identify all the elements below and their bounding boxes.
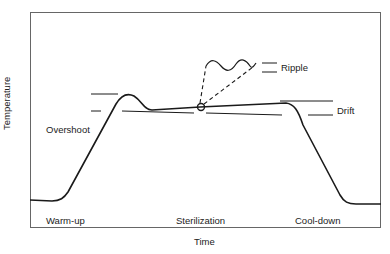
plot-frame: [31, 13, 381, 228]
zoom-dash-left: [200, 66, 206, 103]
ripple-wave: [206, 60, 256, 70]
temperature-curve: [30, 95, 381, 204]
x-axis-label: Time: [194, 236, 215, 247]
phase-label-cool-down: Cool-down: [295, 215, 340, 226]
setpoint-line-right: [206, 113, 282, 115]
phase-label-warm-up: Warm-up: [46, 215, 85, 226]
ripple-label: Ripple: [281, 62, 308, 73]
setpoint-line: [122, 111, 194, 113]
y-axis-label: Temperature: [1, 77, 12, 130]
zoom-dash-right: [204, 67, 253, 104]
overshoot-label: Overshoot: [46, 124, 90, 135]
temperature-profile-diagram: Temperature Overshoot Ripple Drift Warm-…: [0, 0, 390, 254]
drift-label: Drift: [337, 105, 354, 116]
phase-label-sterilization: Sterilization: [176, 215, 225, 226]
